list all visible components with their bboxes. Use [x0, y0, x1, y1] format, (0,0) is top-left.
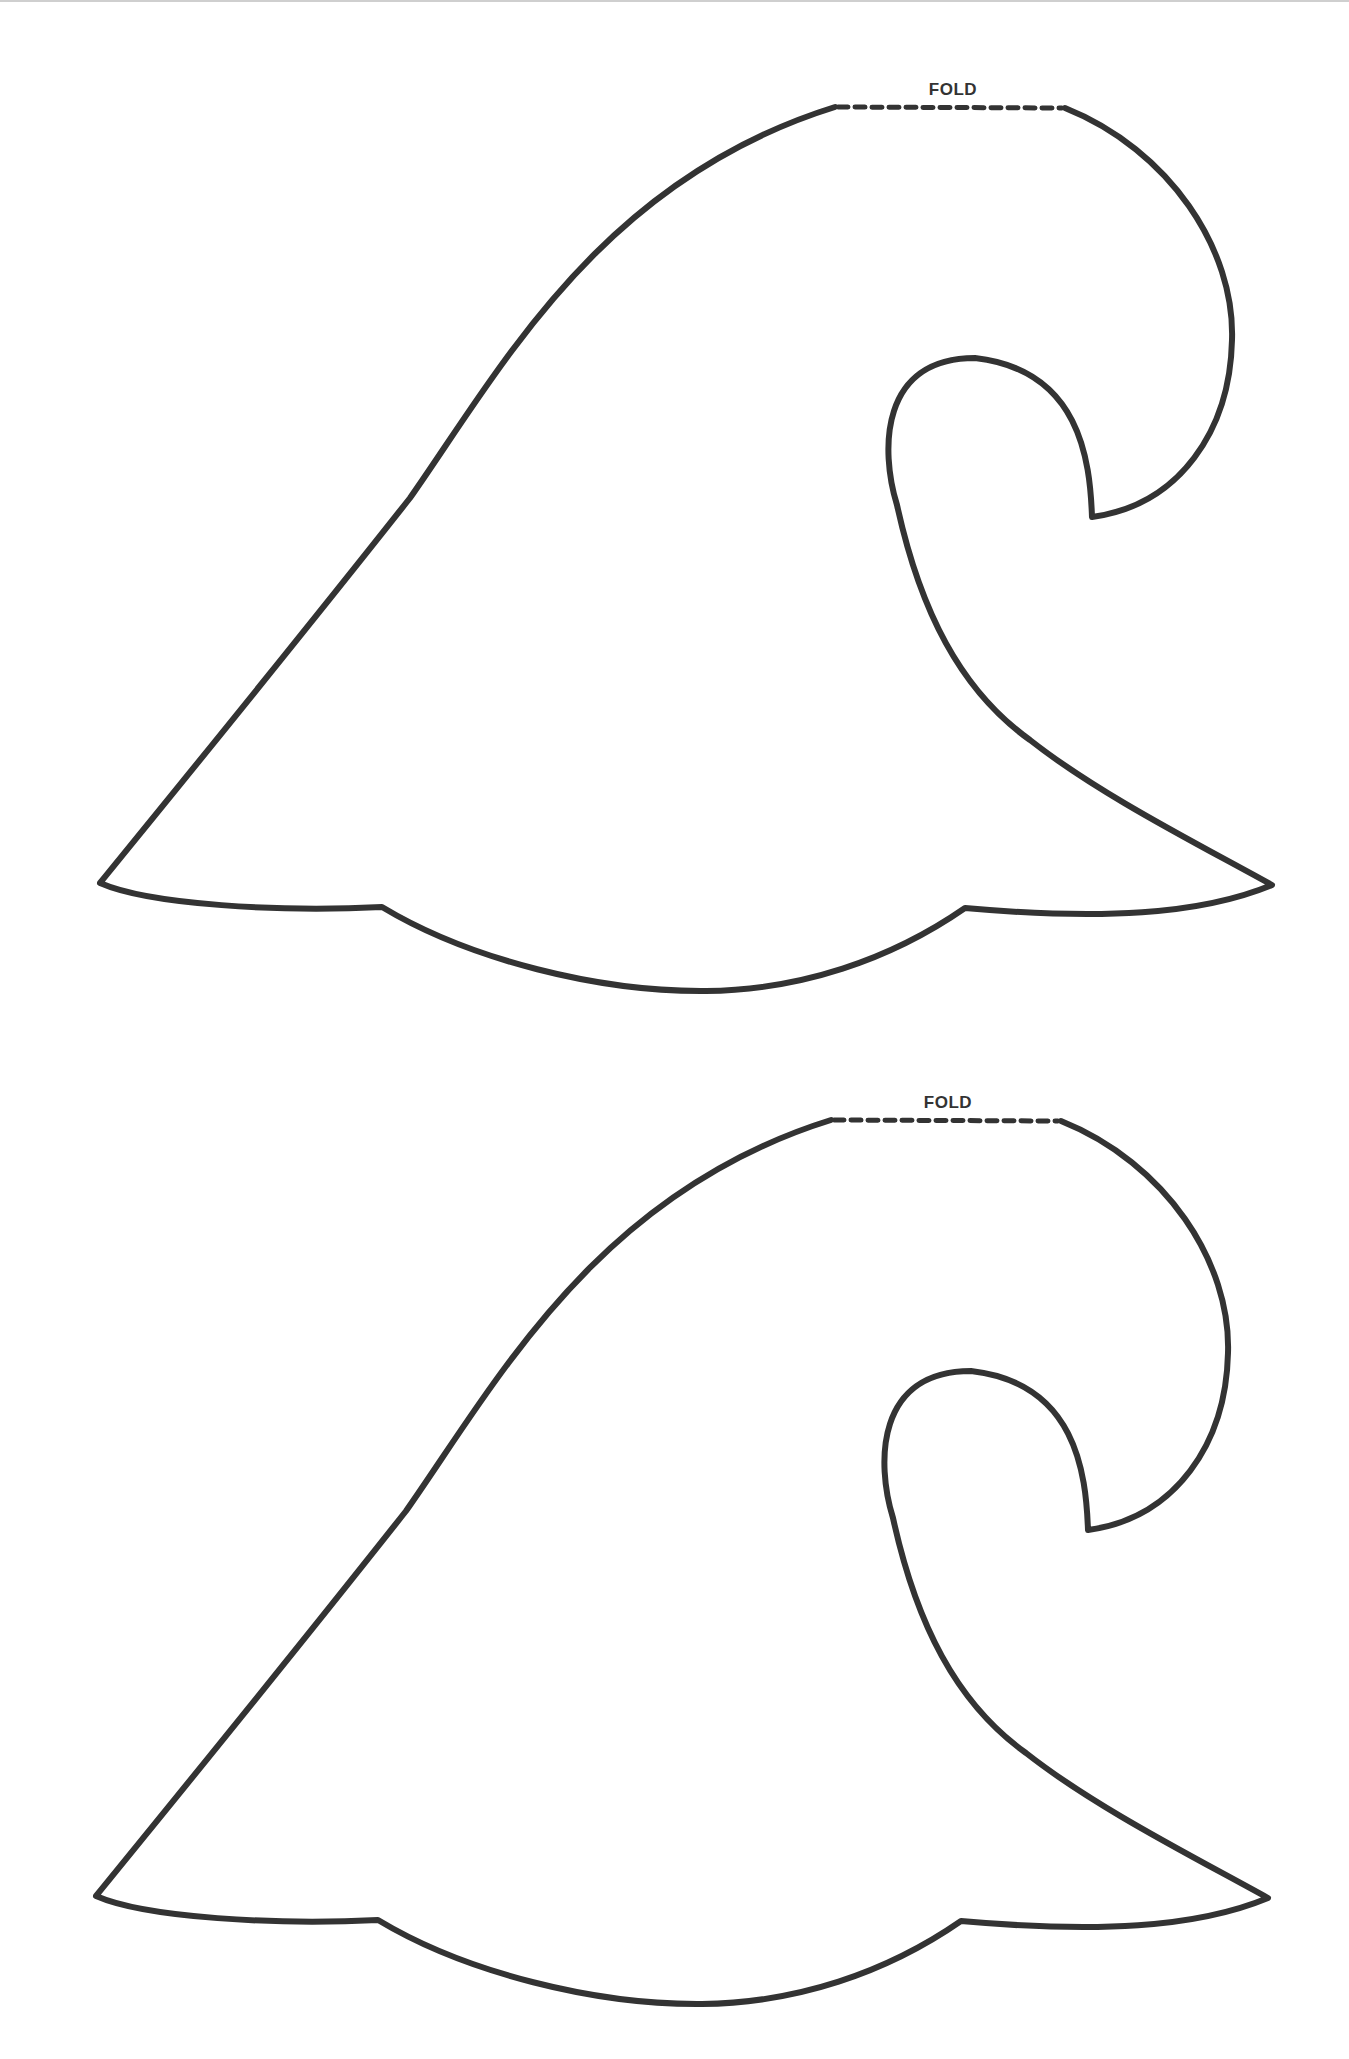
fold-dashed-line [838, 107, 1062, 108]
wave-outline [100, 107, 1272, 991]
template-page [0, 0, 1349, 2059]
wave-outline [96, 1120, 1268, 2004]
fold-dashed-line [834, 1120, 1058, 1121]
wave-template-2 [96, 1120, 1268, 2004]
fold-label: FOLD [924, 1093, 972, 1113]
fold-label: FOLD [929, 80, 977, 100]
wave-template-1 [100, 107, 1272, 991]
